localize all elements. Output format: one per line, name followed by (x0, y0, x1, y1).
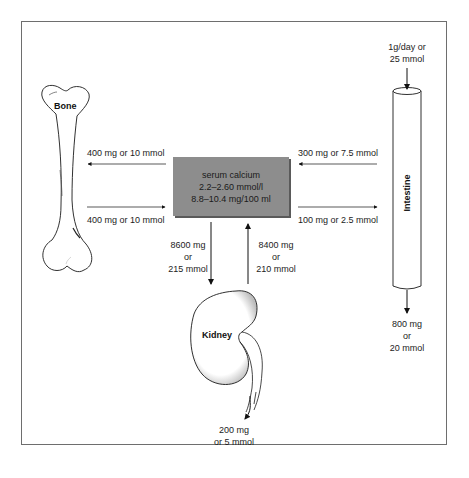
serum-calcium-title: serum calcium (202, 169, 260, 181)
bone-label: Bone (54, 101, 77, 111)
label-serum-to-bone: 400 mg or 10 mmol (87, 147, 165, 159)
label-intake: 1g/day or 25 mmol (380, 41, 434, 65)
intestine-label: Intestine (402, 174, 412, 211)
label-bone-to-serum: 400 mg or 10 mmol (87, 214, 165, 226)
label-kidney-to-serum: 8400 mg or 210 mmol (250, 239, 302, 275)
diagram-canvas: serum calcium 2.2–2.60 mmol/l 8.8–10.4 m… (0, 0, 469, 478)
label-serum-to-intestine: 100 mg or 2.5 mmol (298, 214, 378, 226)
kidney-label: Kidney (202, 330, 232, 340)
bone-icon (42, 85, 92, 271)
label-fecal-loss: 800 mg or 20 mmol (380, 318, 434, 354)
serum-calcium-mg: 8.8–10.4 mg/100 ml (191, 193, 271, 205)
label-intestine-to-serum: 300 mg or 7.5 mmol (298, 147, 378, 159)
diagram-graphics (0, 0, 469, 478)
label-serum-to-kidney: 8600 mg or 215 mmol (162, 239, 214, 275)
serum-calcium-mmol: 2.2–2.60 mmol/l (199, 181, 263, 193)
kidney-icon (191, 291, 263, 412)
serum-calcium-node: serum calcium 2.2–2.60 mmol/l 8.8–10.4 m… (173, 157, 289, 216)
label-urinary-loss: 200 mg or 5 mmol (206, 424, 262, 448)
